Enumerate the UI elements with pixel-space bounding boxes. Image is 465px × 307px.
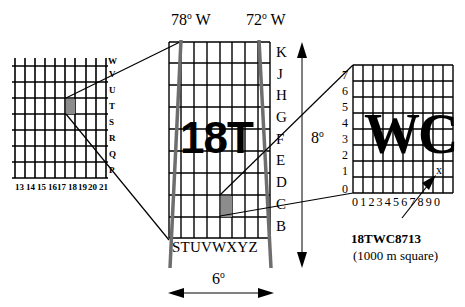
square-row-label-3: 3 [342,133,348,145]
square-row-label-6: 6 [342,85,348,97]
meridian-72-value: 72 [246,11,262,28]
zone-row-label-H: H [276,88,287,103]
left-grid-shaded-cell [66,99,75,114]
left-col-label-16: 16 [48,183,57,192]
zone-row-label-G: G [276,110,287,125]
square-label: WC [364,106,456,162]
height-value: 8 [311,129,319,146]
left-col-label-20: 20 [88,183,97,192]
height-arrow-down-icon [297,252,307,268]
width-arrow-right-icon [258,288,274,298]
square-row-label-0: 0 [342,183,348,195]
connector-top-left [66,42,180,98]
width-arrow-left-icon [168,288,184,298]
reference-caption: (1000 m square) [353,249,438,262]
zone-row-label-K: K [276,45,287,60]
width-label: 6o [212,271,225,287]
degree-mark: o [319,128,324,139]
square-row-label-1: 1 [342,165,348,177]
zone-row-label-C: C [276,197,286,212]
meridian-label-72w: 72o W [246,12,286,28]
left-row-label-W: W [108,57,117,66]
meridian-78-value: 78 [171,11,187,28]
degree-mark: o [220,269,225,280]
zone-row-label-B: B [276,219,286,234]
left-row-label-R: R [109,134,116,143]
connector-bottom-right [220,193,353,216]
left-row-label-U: U [109,86,116,95]
square-row-label-4: 4 [342,117,348,129]
meridian-suffix: W [267,11,286,28]
degree-mark: o [262,10,267,21]
square-row-label-5: 5 [342,101,348,113]
height-label: 8o [311,130,324,146]
zone-label: 18T [180,116,253,160]
left-col-label-15: 15 [37,183,46,192]
left-col-label-17: 17 [57,183,66,192]
left-col-label-14: 14 [26,183,35,192]
left-col-label-18: 18 [68,183,77,192]
left-grid [12,58,108,178]
square-row-label-2: 2 [342,149,348,161]
left-col-label-13: 13 [15,183,24,192]
degree-mark: o [187,10,192,21]
meridian-72w [259,40,271,268]
zone-row-label-E: E [276,153,285,168]
left-col-label-21: 21 [99,183,108,192]
height-arrow-up-icon [297,42,307,58]
square-row-label-7: 7 [342,69,348,81]
left-row-label-Q: Q [109,150,116,159]
meridian-label-78w: 78o W [171,12,211,28]
square-col-labels: 0 1 2 3 4 5 6 7 8 9 0 [352,196,440,208]
zone-col-labels: STUVWXYZ [172,240,258,255]
zone-row-label-J: J [277,67,283,82]
location-marker: x [436,164,442,176]
width-value: 6 [212,270,220,287]
connector-bottom-left [66,114,169,240]
zone-row-label-F: F [276,132,284,147]
zone-row-label-D: D [276,175,287,190]
reference-label: 18TWC8713 [351,232,421,245]
left-row-label-V: V [109,70,116,79]
left-row-label-P: P [109,166,115,175]
left-row-label-S: S [109,118,114,127]
left-col-label-19: 19 [78,183,87,192]
meridian-suffix: W [192,11,211,28]
left-row-label-T: T [109,102,115,111]
